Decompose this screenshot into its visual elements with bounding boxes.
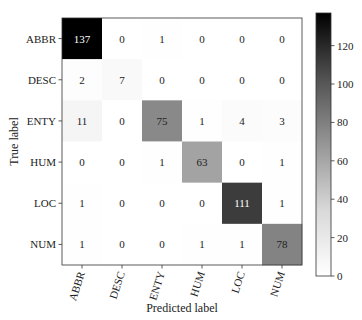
- cell-value-label: 0: [199, 74, 205, 86]
- colorbar-tick-label: 100: [337, 78, 354, 90]
- cell-value-label: 2: [79, 74, 85, 86]
- cell-value-label: 0: [159, 197, 165, 209]
- cell-value-label: 1: [239, 238, 245, 250]
- colorbar-ticks: 020406080100120: [331, 40, 354, 282]
- y-axis-label: True label: [7, 117, 21, 166]
- cell-value-label: 4: [239, 115, 245, 127]
- y-tick-label: DESC: [28, 74, 56, 86]
- cell-value-label: 0: [119, 197, 125, 209]
- cell-value-label: 0: [279, 74, 285, 86]
- cell-value-label: 0: [199, 33, 205, 45]
- cell-value-label: 111: [234, 197, 250, 209]
- cell-value-label: 0: [119, 156, 125, 168]
- colorbar-tick-label: 40: [337, 193, 349, 205]
- colorbar-tick-label: 120: [337, 40, 354, 52]
- colorbar-tick-label: 20: [337, 232, 349, 244]
- x-tick-label: LOC: [229, 270, 247, 295]
- colorbar-tick-label: 60: [337, 155, 349, 167]
- y-tick-label: ENTY: [27, 115, 56, 127]
- colorbar-tick-label: 80: [337, 116, 349, 128]
- cell-value-label: 3: [279, 115, 285, 127]
- cell-value-label: 0: [119, 33, 125, 45]
- y-axis-ticks: ABBRDESCENTYHUMLOCNUM: [26, 33, 62, 251]
- x-tick-label: ENTY: [146, 270, 166, 302]
- cell-value-label: 1: [279, 197, 285, 209]
- x-tick-label: DESC: [107, 270, 127, 300]
- cell-value-label: 0: [279, 33, 285, 45]
- cell-value-label: 0: [239, 74, 245, 86]
- cell-value-label: 1: [199, 238, 205, 250]
- y-tick-label: LOC: [34, 197, 56, 209]
- cell-value-label: 63: [197, 156, 209, 168]
- cell-value-label: 0: [79, 156, 85, 168]
- cell-value-label: 1: [79, 197, 85, 209]
- cell-value-label: 137: [74, 33, 91, 45]
- colorbar: [316, 13, 331, 276]
- cell-value-label: 0: [239, 33, 245, 45]
- cell-value-label: 0: [199, 197, 205, 209]
- matrix-cells: 1370100027000011075143001630110001111100…: [62, 18, 302, 265]
- x-axis-ticks: ABBRDESCENTYHUMLOCNUM: [66, 265, 287, 302]
- y-tick-label: ABBR: [26, 33, 57, 45]
- cell-value-label: 1: [159, 33, 165, 45]
- cell-value-label: 0: [119, 115, 125, 127]
- cell-value-label: 0: [159, 238, 165, 250]
- x-tick-label: HUM: [188, 270, 207, 298]
- cell-value-label: 7: [119, 74, 125, 86]
- colorbar-tick-label: 0: [337, 270, 343, 282]
- cell-value-label: 1: [159, 156, 165, 168]
- cell-value-label: 11: [77, 115, 88, 127]
- cell-value-label: 1: [199, 115, 205, 127]
- y-tick-label: HUM: [30, 156, 56, 168]
- cell-value-label: 1: [79, 238, 85, 250]
- x-tick-label: ABBR: [66, 269, 87, 302]
- x-axis-label: Predicted label: [146, 301, 218, 315]
- cell-value-label: 1: [279, 156, 285, 168]
- confusion-matrix-chart: 1370100027000011075143001630110001111100…: [0, 0, 362, 320]
- cell-value-label: 0: [159, 74, 165, 86]
- cell-value-label: 0: [239, 156, 245, 168]
- cell-value-label: 0: [119, 238, 125, 250]
- cell-value-label: 78: [277, 238, 289, 250]
- x-tick-label: NUM: [268, 270, 287, 298]
- cell-value-label: 75: [157, 115, 169, 127]
- y-tick-label: NUM: [30, 238, 56, 250]
